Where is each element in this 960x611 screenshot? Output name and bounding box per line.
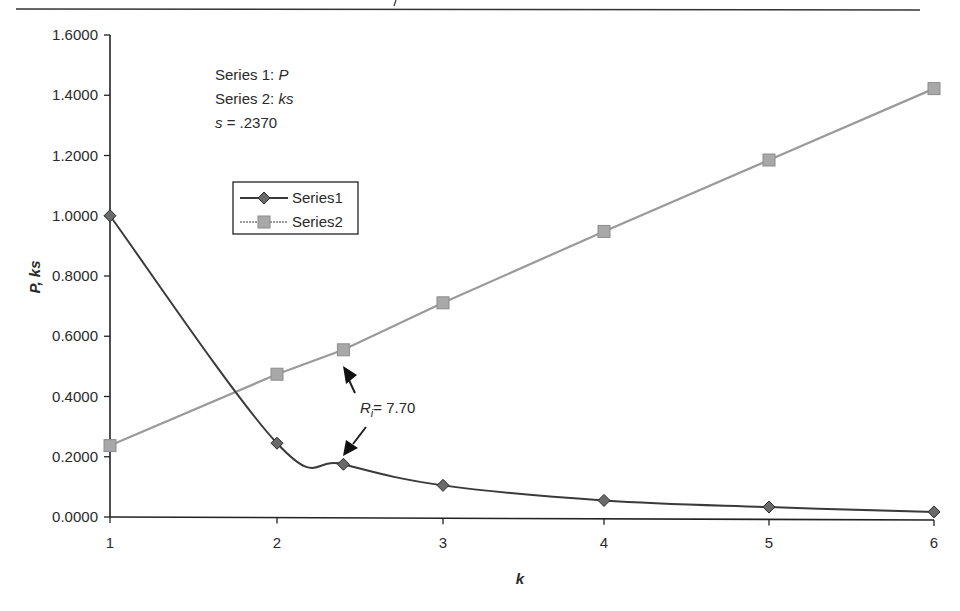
note-series1: Series 1: P: [215, 66, 288, 83]
y-tick-label: 0.2000: [52, 448, 98, 465]
series2-square-marker-icon: [271, 368, 283, 380]
title-fragment-mark: [394, 0, 396, 6]
x-tick-label: 1: [106, 534, 114, 551]
series1-diamond-marker-icon: [337, 458, 349, 470]
x-tick-label: 3: [439, 534, 447, 551]
y-tick-label: 0.6000: [52, 327, 98, 344]
note-s-value: s = .2370: [215, 114, 277, 131]
x-axis-line: [110, 517, 934, 520]
y-tick-label: 1.2000: [52, 147, 98, 164]
x-axis: 123456: [106, 517, 938, 551]
y-tick-label: 1.0000: [52, 207, 98, 224]
y-tick-label: 1.6000: [52, 26, 98, 43]
legend-series2-square-icon: [258, 216, 270, 228]
series2-square-marker-icon: [928, 83, 940, 95]
arrow-down-shaft: [353, 427, 366, 444]
y-axis-title: P, ks: [26, 260, 43, 293]
x-tick-label: 5: [765, 534, 773, 551]
x-tick-label: 6: [930, 534, 938, 551]
x-axis-title: k: [516, 570, 525, 587]
y-axis: 0.00000.20000.40000.60000.80001.00001.20…: [52, 26, 110, 525]
x-tick-label: 2: [273, 534, 281, 551]
top-rule: [16, 9, 920, 10]
series1-diamond-marker-icon: [763, 501, 775, 513]
legend-series1-label: Series1: [292, 189, 343, 206]
series1-diamond-marker-icon: [437, 479, 449, 491]
y-tick-label: 1.4000: [52, 86, 98, 103]
series1-line: [110, 216, 934, 512]
ri-label: Ri= 7.70: [360, 399, 415, 419]
series-markers: [104, 83, 940, 518]
legend: Series1 Series2: [233, 182, 358, 234]
series2-square-marker-icon: [763, 154, 775, 166]
ri-annotation: Ri= 7.70: [343, 366, 415, 456]
x-tick-label: 4: [600, 534, 608, 551]
series1-diamond-marker-icon: [928, 506, 940, 518]
arrow-down-head-icon: [343, 440, 358, 456]
series2-square-marker-icon: [437, 297, 449, 309]
series-lines: [110, 89, 934, 512]
notes-block: Series 1: P Series 2: ks s = .2370: [215, 66, 294, 131]
legend-series2-label: Series2: [292, 213, 343, 230]
y-tick-label: 0.8000: [52, 267, 98, 284]
y-tick-label: 0.4000: [52, 388, 98, 405]
series2-square-marker-icon: [104, 440, 116, 452]
series1-diamond-marker-icon: [598, 494, 610, 506]
series2-square-marker-icon: [598, 225, 610, 237]
series2-square-marker-icon: [337, 344, 349, 356]
y-tick-label: 0.0000: [52, 508, 98, 525]
line-chart: 0.00000.20000.40000.60000.80001.00001.20…: [0, 0, 960, 611]
series2-line: [110, 89, 934, 446]
note-series2: Series 2: ks: [215, 90, 294, 107]
